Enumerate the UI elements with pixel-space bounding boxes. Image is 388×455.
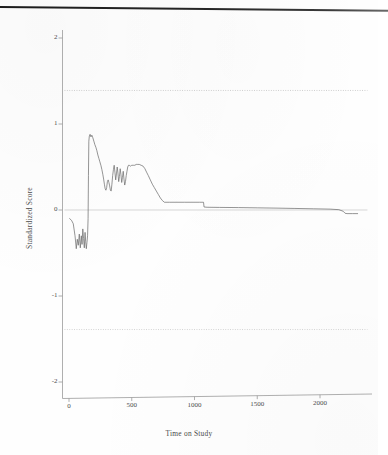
x-tick-label: 2000	[305, 399, 335, 407]
y-tick-label: 0	[49, 205, 58, 213]
x-axis-title: Time on Study	[0, 429, 378, 438]
y-tick-label: -2	[49, 377, 58, 385]
reference-lines-group	[65, 90, 368, 329]
axis-ticks-group	[59, 38, 321, 402]
y-tick-label: 1	[49, 119, 58, 127]
x-tick-label: 0	[54, 402, 84, 410]
x-tick-label: 1000	[180, 401, 210, 409]
y-axis-title: Standardized Score	[25, 187, 34, 249]
y-tick-label: 2	[49, 33, 58, 41]
y-tick-label: -1	[49, 291, 58, 299]
series-line-standardized-score	[70, 134, 358, 248]
x-tick-label: 500	[117, 401, 147, 409]
axes-group	[63, 30, 373, 399]
x-tick-label: 1500	[242, 400, 272, 408]
data-series-group	[70, 134, 358, 248]
